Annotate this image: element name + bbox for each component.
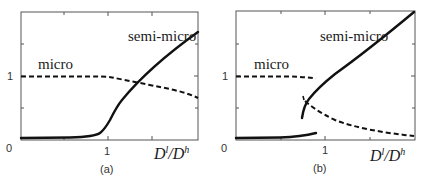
panel-b-x-axis-label-den-sup: h <box>400 146 405 157</box>
panel-a-y-tick-label-1: 1 <box>7 71 13 82</box>
panel-a-y-tick-label-0: 0 <box>6 143 12 154</box>
panel-b-semi-micro-lower-branch <box>236 133 316 138</box>
panel-b-y-tick-label-1: 1 <box>222 71 228 82</box>
panel-b-x-axis-label-num: D <box>370 147 382 164</box>
panel-b-x-axis-label-den: D <box>389 147 401 164</box>
panel-a-x-tick-label-1: 1 <box>104 146 110 157</box>
panel-b-y-tick-label-0: 0 <box>221 143 227 154</box>
panel-a-caption: (a) <box>100 164 113 175</box>
panel-b-cusp-mark <box>303 96 304 100</box>
panel-a-semi-micro-curve <box>21 32 198 138</box>
panel-a-x-axis-label: Dl/Dh <box>154 145 189 162</box>
panel-b-micro-lower-branch <box>305 101 414 136</box>
panel-b-x-axis-label: Dl/Dh <box>370 147 405 164</box>
panel-a-micro-curve <box>21 77 198 99</box>
panel-b-semi-micro-label: semi-micro <box>320 29 388 44</box>
panel-a-semi-micro-label: semi-micro <box>128 29 196 44</box>
panel-a-x-axis-label-den-sup: h <box>184 144 189 155</box>
panel-a-x-axis-label-num: D <box>154 145 166 162</box>
panel-b-x-tick-label-1: 1 <box>322 145 328 156</box>
panel-b-micro-upper-branch <box>236 77 316 79</box>
panel-a-micro-label: micro <box>38 57 73 72</box>
panel-b-micro-label: micro <box>254 57 289 72</box>
panel-b-caption: (b) <box>313 163 326 174</box>
panel-a-x-axis-label-den: D <box>173 145 185 162</box>
